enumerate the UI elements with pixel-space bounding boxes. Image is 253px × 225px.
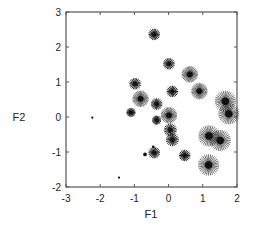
data-point [163, 58, 175, 70]
y-tick-label: 1 [55, 77, 61, 88]
x-tick-labels: -3-2-1012 [62, 193, 241, 204]
data-point [126, 108, 135, 117]
x-tick-label: 2 [234, 193, 240, 204]
data-point [166, 133, 179, 146]
data-point [129, 78, 141, 90]
data-point [191, 83, 207, 99]
y-tick-label: 2 [55, 42, 61, 53]
data-point [143, 153, 147, 157]
y-tick-label: 3 [55, 7, 61, 18]
data-point [218, 103, 239, 124]
y-axis-label: F2 [13, 111, 26, 123]
scatter-chart: -3-2-1012 -2-10123 F1 F2 [0, 0, 253, 225]
x-axis-label: F1 [145, 208, 158, 220]
y-tick-label: 0 [55, 112, 61, 123]
data-point [91, 117, 93, 119]
data-point [198, 154, 219, 175]
data-point [182, 66, 198, 82]
data-point [151, 98, 163, 110]
data-points [91, 29, 239, 179]
data-point [132, 91, 148, 107]
data-point [167, 86, 179, 98]
x-tick-label: 1 [200, 193, 206, 204]
y-tick-labels: -2-10123 [52, 7, 61, 193]
data-point [179, 150, 191, 162]
data-point [152, 116, 161, 125]
x-tick-label: 0 [166, 193, 172, 204]
x-tick-label: -3 [62, 193, 71, 204]
data-point [118, 176, 120, 178]
x-tick-label: -2 [96, 193, 105, 204]
data-point [210, 130, 231, 151]
y-tick-label: -2 [52, 182, 61, 193]
y-tick-label: -1 [52, 147, 61, 158]
x-tick-label: -1 [130, 193, 139, 204]
data-point [148, 147, 160, 159]
data-point [148, 29, 160, 41]
data-point [161, 107, 177, 123]
